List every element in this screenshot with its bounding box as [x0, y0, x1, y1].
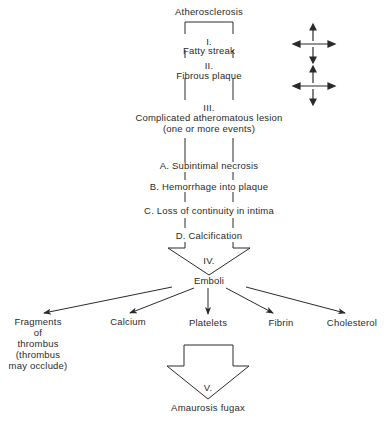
event-c: C. Loss of continuity in intima	[144, 205, 274, 216]
emboli-fragments-line: of	[9, 327, 68, 338]
emboli-calcium: Calcium	[110, 316, 146, 327]
stage5-label: Amaurosis fugax	[171, 402, 245, 413]
emboli-fragments-line: may occlude)	[9, 360, 68, 371]
event-d: D. Calcification	[176, 230, 243, 241]
stage2-label: Fibrous plaque	[176, 70, 242, 81]
emboli-fragments-line: Fragments	[9, 316, 68, 327]
title-atherosclerosis: Atherosclerosis	[175, 6, 243, 17]
stage3-sublabel: (one or more events)	[163, 123, 255, 134]
event-a: A. Subintimal necrosis	[160, 160, 258, 171]
emboli-fragments-line: thrombus	[9, 338, 68, 349]
event-b: B. Hemorrhage into plaque	[150, 181, 269, 192]
emboli-cholesterol: Cholesterol	[327, 317, 377, 328]
emboli-fragments-line: (thrombus	[9, 349, 68, 360]
arrow-to-cholesterol	[246, 287, 345, 313]
stage1-label: Fatty streak	[183, 45, 235, 56]
stage4-label: Emboli	[194, 275, 224, 286]
arrow-to-calcium	[130, 288, 194, 313]
stage5-numeral: V.	[204, 382, 213, 393]
reversible-arrows-icon	[293, 24, 335, 63]
emboli-fibrin: Fibrin	[269, 317, 294, 328]
emboli-platelets: Platelets	[189, 317, 227, 328]
stage4-numeral: IV.	[203, 255, 214, 266]
arrow-to-fragments	[44, 287, 172, 313]
reversible-arrows-icon	[293, 66, 335, 105]
emboli-fragments: Fragments of thrombus (thrombus may occl…	[9, 316, 68, 371]
pathway-bracket	[185, 22, 233, 34]
stage3-label: Complicated atheromatous lesion	[135, 112, 282, 123]
